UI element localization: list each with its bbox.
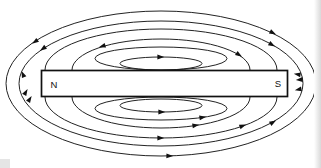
- field-arrowhead: [294, 86, 302, 92]
- magnetic-field-diagram: NS: [0, 0, 321, 168]
- field-arrowhead: [98, 43, 106, 50]
- field-arrowhead: [39, 45, 47, 53]
- field-line-arc: [45, 29, 277, 70]
- south-pole-label: S: [275, 78, 281, 89]
- field-arrowhead: [269, 118, 277, 126]
- field-line-ellipse: [95, 47, 227, 70]
- field-line-ellipse: [120, 99, 202, 112]
- field-arrowhead: [269, 29, 277, 36]
- field-arrowhead: [26, 95, 34, 103]
- field-arrowhead: [296, 77, 303, 82]
- field-arrowhead: [158, 110, 165, 115]
- field-diagram-canvas: NS: [0, 0, 321, 168]
- field-arrowhead: [157, 55, 164, 60]
- scan-corner-artifact: [0, 159, 10, 168]
- field-arrowhead: [268, 41, 276, 49]
- field-line-arc: [45, 97, 277, 138]
- field-arrowhead: [157, 136, 164, 141]
- scan-edge-artifact: [314, 0, 321, 168]
- field-arrowhead: [293, 71, 301, 77]
- field-arrowhead: [239, 122, 247, 129]
- bar-magnet: [42, 71, 288, 97]
- field-arrowhead: [22, 88, 30, 96]
- field-line-ellipse: [120, 57, 202, 70]
- field-line-ellipse: [95, 97, 227, 120]
- north-pole-label: N: [51, 79, 58, 90]
- field-arrowhead: [166, 153, 173, 158]
